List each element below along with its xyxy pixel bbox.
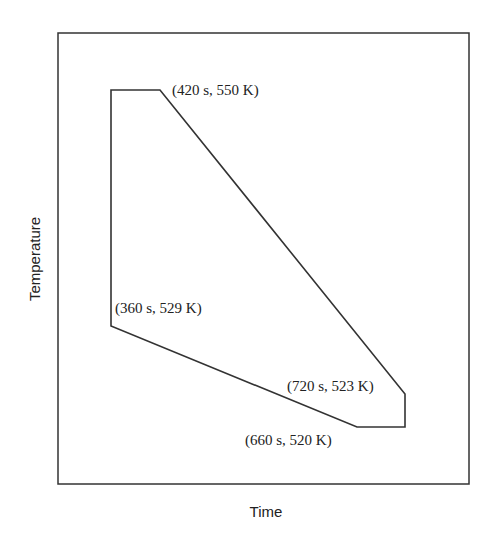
- plot-frame: [58, 33, 469, 484]
- temperature-time-diagram: (420 s, 550 K) (360 s, 529 K) (720 s, 52…: [0, 0, 492, 535]
- annotation-420s-550K: (420 s, 550 K): [172, 82, 259, 99]
- annotation-720s-523K: (720 s, 523 K): [287, 378, 374, 395]
- annotation-360s-529K: (360 s, 529 K): [115, 300, 202, 317]
- annotation-660s-520K: (660 s, 520 K): [245, 432, 332, 449]
- process-window-polygon: [111, 90, 405, 427]
- y-axis-label: Temperature: [26, 217, 43, 301]
- x-axis-label: Time: [250, 503, 283, 520]
